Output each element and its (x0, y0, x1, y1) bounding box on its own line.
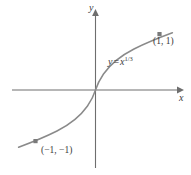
cube-root-function-figure: y x y=x1/3 (1, 1) (−1, −1) (0, 0, 191, 175)
equation-operator: = (112, 56, 120, 67)
equation-label: y=x1/3 (108, 57, 133, 67)
point-annotation-1-1: (1, 1) (153, 37, 174, 47)
x-axis (12, 87, 184, 94)
y-axis-label: y (89, 3, 93, 13)
plot-canvas (0, 0, 191, 175)
data-point-marker (33, 139, 37, 143)
equation-exponent: 1/3 (125, 55, 133, 62)
x-axis-label: x (179, 93, 183, 103)
point-annotation-neg1-neg1: (−1, −1) (41, 146, 72, 156)
